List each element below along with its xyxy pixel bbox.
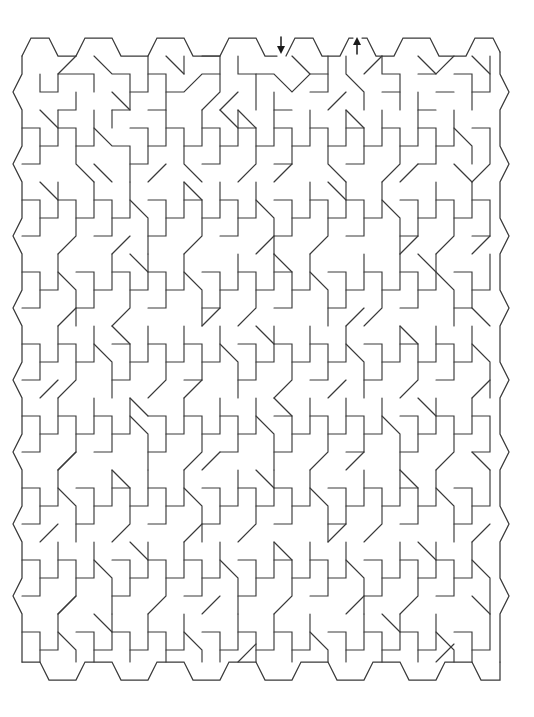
- maze-interior-walls: [22, 56, 490, 662]
- exit-marker: [353, 37, 361, 54]
- maze-puzzle-page: Maze Puzzle entrance-arrow-down exit-arr…: [0, 0, 534, 717]
- entrance-marker: [277, 37, 285, 54]
- up-arrow-head-icon: [353, 37, 361, 45]
- maze-canvas: [0, 0, 534, 717]
- maze-outer-border: [13, 38, 509, 680]
- down-arrow-head-icon: [277, 46, 285, 54]
